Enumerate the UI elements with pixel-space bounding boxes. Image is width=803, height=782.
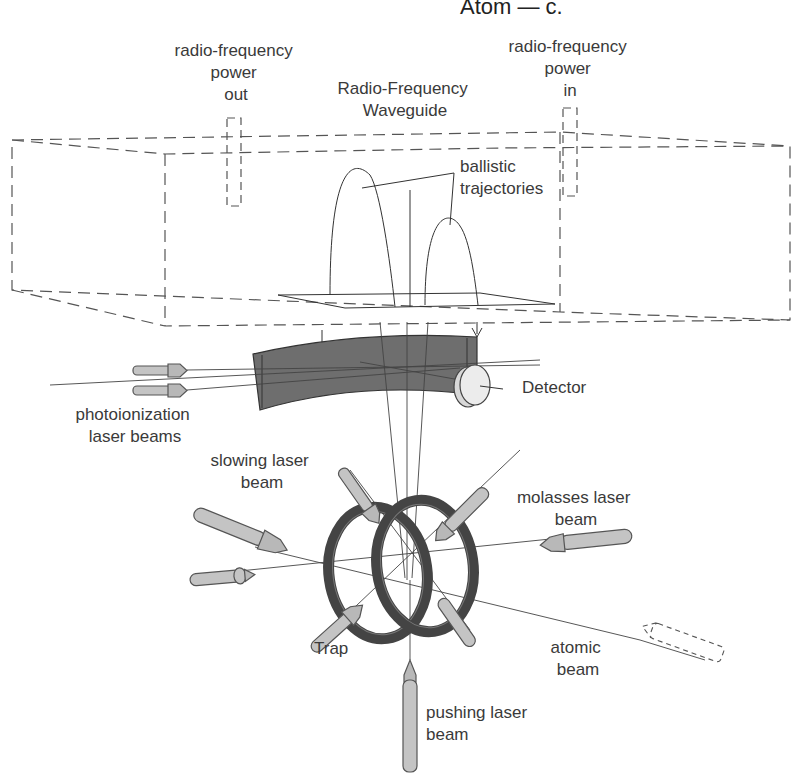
header-title: Atom — c. — [460, 0, 563, 19]
label-trap: Trap — [314, 639, 348, 658]
label-atomic-beam: atomic beam — [551, 638, 606, 679]
molasses-laser — [539, 527, 632, 555]
molasses-laser-left — [189, 567, 255, 589]
pushing-laser — [403, 660, 417, 772]
label-molasses-laser: molasses laser beam — [517, 488, 635, 529]
slowing-laser — [191, 503, 291, 559]
label-waveguide: Radio-Frequency Waveguide — [337, 79, 472, 120]
label-ballistic-trajectories: ballistic trajectories — [460, 157, 543, 198]
label-rf-power-in: radio-frequency power in — [509, 37, 632, 100]
label-photoionization: photoionization laser beams — [75, 405, 194, 446]
atomic-beam-source — [640, 619, 725, 663]
label-rf-power-out: radio-frequency power out — [175, 41, 298, 104]
label-pushing-laser: pushing laser beam — [426, 703, 532, 744]
detector — [454, 365, 503, 407]
label-slowing-laser: slowing laser beam — [211, 451, 314, 492]
atom-apparatus-diagram: Atom — c. — [0, 0, 803, 782]
label-detector: Detector — [522, 378, 587, 397]
